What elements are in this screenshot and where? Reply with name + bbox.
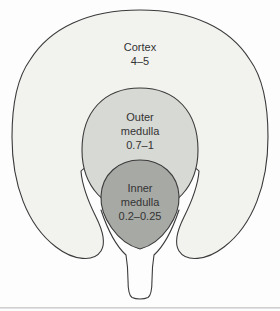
cortex-label-line-2: 4–5 [131, 55, 149, 67]
cortex-label-line-1: Cortex [124, 41, 157, 53]
kidney-diagram-canvas: Cortex 4–5 Outer medulla 0.7–1 Inner med… [0, 0, 280, 311]
outer-medulla-label-line-3: 0.7–1 [126, 139, 154, 151]
inner-medulla-label-line-3: 0.2–0.25 [119, 210, 162, 222]
outer-medulla-label-line-2: medulla [121, 125, 160, 137]
inner-medulla-label-line-1: Inner [127, 182, 152, 194]
outer-medulla-label-line-1: Outer [126, 111, 154, 123]
page-edge-artifact [0, 307, 280, 309]
inner-medulla-label-line-2: medulla [121, 196, 160, 208]
kidney-diagram: Cortex 4–5 Outer medulla 0.7–1 Inner med… [0, 0, 280, 311]
